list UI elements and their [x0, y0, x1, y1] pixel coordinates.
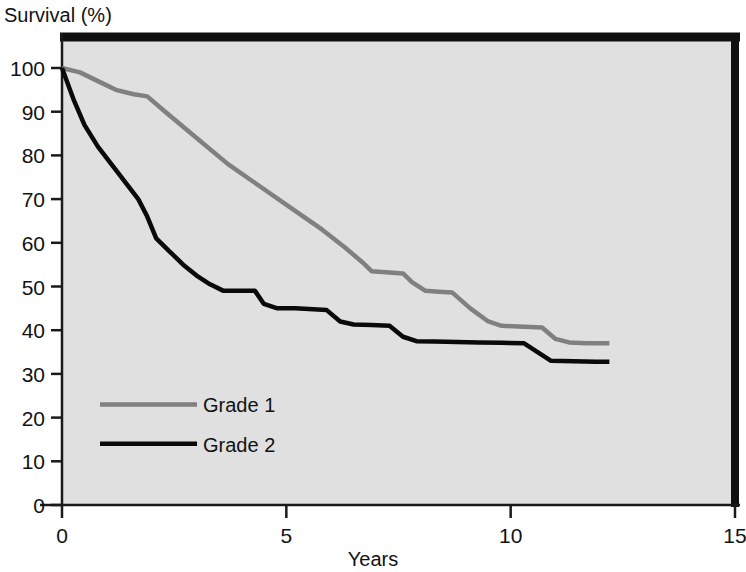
y-tick-label: 70 [22, 188, 45, 211]
y-tick-label: 60 [22, 232, 45, 255]
y-tick-label: 0 [33, 494, 45, 517]
x-tick-label: 0 [56, 524, 68, 547]
y-tick-label: 40 [22, 319, 45, 342]
x-axis-ticks [62, 505, 735, 518]
y-tick-label: 50 [22, 276, 45, 299]
y-axis-ticks [51, 68, 62, 505]
plot-area-background [62, 33, 738, 505]
legend-label: Grade 2 [203, 434, 275, 456]
y-tick-label: 80 [22, 144, 45, 167]
x-tick-label: 15 [723, 524, 746, 547]
y-tick-label: 20 [22, 407, 45, 430]
y-tick-label: 30 [22, 363, 45, 386]
x-tick-label: 5 [280, 524, 292, 547]
chart-canvas: 0102030405060708090100 051015 Grade 1Gra… [0, 0, 746, 572]
y-axis-title: Survival (%) [4, 4, 112, 26]
x-tick-label: 10 [499, 524, 522, 547]
y-axis-tick-labels: 0102030405060708090100 [10, 57, 45, 517]
x-axis-title: Years [348, 548, 398, 570]
y-tick-label: 100 [10, 57, 45, 80]
y-tick-label: 10 [22, 450, 45, 473]
survival-curve-figure: 0102030405060708090100 051015 Grade 1Gra… [0, 0, 746, 572]
y-tick-label: 90 [22, 101, 45, 124]
legend-label: Grade 1 [203, 394, 275, 416]
x-axis-tick-labels: 051015 [56, 524, 746, 547]
